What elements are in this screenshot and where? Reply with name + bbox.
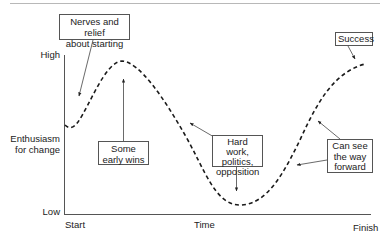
callout-way-forward: Can see the way forward xyxy=(327,139,373,173)
callout-nerves: Nerves and relief about starting xyxy=(59,14,130,40)
arrow-way-forward-left xyxy=(297,160,327,165)
callout-way-forward-line1: Can see xyxy=(331,141,369,152)
callout-early-wins-line2: early wins xyxy=(102,154,145,165)
callout-early-wins-line1: Some xyxy=(102,143,145,154)
y-axis-title-line1: Enthusiasm xyxy=(10,133,60,144)
callout-nerves-line1: Nerves and relief xyxy=(63,16,126,38)
arrow-way-forward-up xyxy=(318,121,340,139)
callout-nerves-line2: about starting xyxy=(63,38,126,49)
arrow-hard-work-up xyxy=(190,123,214,137)
arrow-success xyxy=(348,46,355,59)
x-axis-start-label: Start xyxy=(65,219,85,230)
callout-success-line1: Success xyxy=(338,33,370,45)
callout-success: Success xyxy=(335,32,373,46)
callout-hard-work-line3: opposition xyxy=(216,167,259,177)
y-axis-title: Enthusiasm for change xyxy=(10,133,60,155)
callout-hard-work-line1: Hard work, xyxy=(216,137,259,157)
x-axis-finish-label: Finish xyxy=(353,222,378,233)
y-axis-title-line2: for change xyxy=(10,144,60,155)
enthusiasm-curve xyxy=(65,61,365,205)
callout-hard-work: Hard work, politics, opposition xyxy=(212,135,263,167)
y-axis-low-label: Low xyxy=(43,206,60,217)
x-axis-time-label: Time xyxy=(194,219,215,230)
y-axis-high-label: High xyxy=(40,49,60,60)
callout-way-forward-line3: forward xyxy=(331,162,369,173)
callout-early-wins: Some early wins xyxy=(98,141,149,165)
